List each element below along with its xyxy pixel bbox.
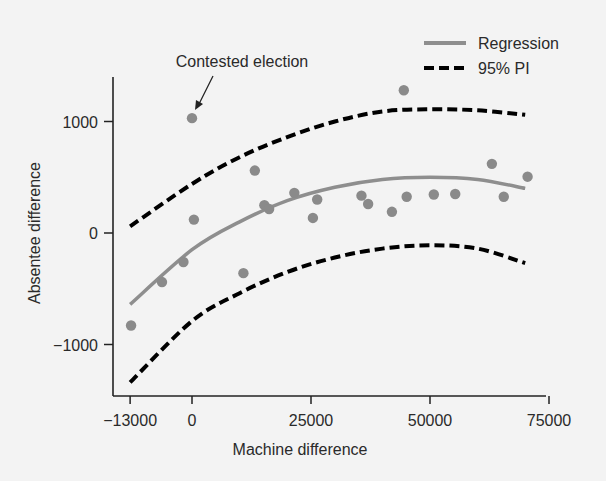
data-point [429, 189, 439, 199]
data-point [312, 194, 322, 204]
y-tick-label: 1000 [62, 114, 98, 131]
annotation-text: Contested election [176, 53, 309, 70]
x-axis-label: Machine difference [233, 441, 368, 458]
y-tick-label: 0 [89, 225, 98, 242]
y-axis-label: Absentee difference [26, 162, 43, 304]
x-tick-label: 50000 [408, 412, 453, 429]
x-tick-label: 75000 [527, 412, 572, 429]
data-point [178, 257, 188, 267]
data-point [189, 214, 199, 224]
data-point [522, 171, 532, 181]
x-tick-label: 0 [188, 412, 197, 429]
data-point [126, 320, 136, 330]
data-point [487, 159, 497, 169]
data-point [238, 268, 248, 278]
data-point [363, 199, 373, 209]
data-point [499, 192, 509, 202]
data-point [157, 277, 167, 287]
x-tick-label: 25000 [289, 412, 334, 429]
data-point [264, 204, 274, 214]
data-point [250, 165, 260, 175]
data-point [356, 190, 366, 200]
data-point [401, 192, 411, 202]
data-point [387, 207, 397, 217]
data-point [308, 213, 318, 223]
x-tick-label: −13000 [103, 412, 157, 429]
data-point [450, 189, 460, 199]
data-point [187, 113, 197, 123]
legend-pi-label: 95% PI [478, 60, 530, 77]
data-point [399, 85, 409, 95]
data-point [289, 188, 299, 198]
legend-regression-label: Regression [478, 35, 559, 52]
scatter-chart: −130000250005000075000 10000−1000 Machin… [0, 0, 606, 481]
y-tick-label: −1000 [53, 337, 98, 354]
